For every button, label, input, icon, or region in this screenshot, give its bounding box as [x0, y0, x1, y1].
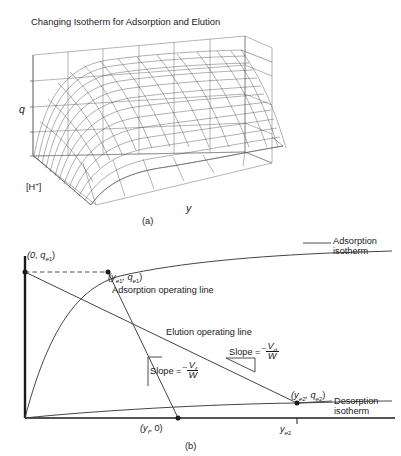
panel-a-caption: (a) — [142, 216, 153, 226]
mesh-constant-y-lines — [34, 50, 286, 205]
panel-a-q-axis-label: q — [19, 104, 25, 116]
marker-yf-0 — [176, 416, 181, 421]
surface-front-edge — [34, 146, 283, 205]
slope-desorbent-label: Slope = — [229, 347, 260, 357]
yf0-end: , 0) — [149, 423, 162, 433]
label-desorption-isotherm-line2: isotherm — [334, 406, 369, 416]
label-adsorption-isotherm-line1: Adsorption — [333, 236, 377, 246]
ye2qe2-q: , q — [305, 390, 315, 400]
ye1qe1-end: ) — [139, 272, 142, 282]
ye2qe2-end: ) — [322, 390, 325, 400]
figure-artwork — [0, 0, 401, 456]
label-point-ye2-qe2: (ye2, qe2) — [291, 390, 325, 400]
slope-desorbent-fraction: Vd W — [266, 342, 279, 362]
ye1qe1-y: (y — [108, 272, 116, 282]
slope-feed-denominator: W — [187, 371, 199, 380]
label-adsorption-isotherm-line2: isotherm — [333, 246, 368, 256]
slope-feed-label: Slope = — [150, 366, 181, 376]
ye2qe2-y: (y — [291, 390, 299, 400]
label-adsorption-operating-line: Adsorption operating line — [112, 285, 214, 295]
surface-shelf — [241, 50, 283, 146]
label-point-yf-0: (yf, 0) — [140, 423, 163, 433]
label-axis-tick-ye2: ye2 — [280, 424, 291, 434]
yf0-y: (y — [140, 423, 148, 433]
h-label-main: [H — [26, 182, 35, 192]
right-wall-grid — [245, 36, 272, 163]
marker-0-qe1 — [23, 270, 28, 275]
ye2-axis-sub-2: 2 — [288, 430, 291, 436]
floor-grid — [33, 152, 272, 205]
q-axis — [30, 55, 33, 156]
panel-a-h-axis-label: [H+] — [26, 182, 41, 192]
label-point-ye1-qe1: (ye1, qe1) — [108, 272, 142, 282]
panel-b-caption: (b) — [185, 441, 196, 451]
qe1-text-a: (0, q — [27, 250, 45, 260]
ye1qe1-q: , q — [122, 272, 132, 282]
slope-feed-fraction: Vf W — [187, 361, 199, 381]
figure-title: Changing Isotherm for Adsorption and Elu… — [31, 17, 220, 28]
label-point-0-qe1: (0, qe1) — [27, 250, 55, 260]
label-elution-operating-line: Elution operating line — [166, 327, 252, 337]
qe1-text-end: ) — [52, 250, 55, 260]
panel-a-3d-surface — [30, 36, 286, 205]
label-desorption-isotherm-line1: Desorption — [334, 396, 378, 406]
slope-annotation-desorbent: Slope = – Vd W — [229, 342, 279, 362]
panel-a-y-axis-label: y — [186, 203, 191, 215]
figure-container: Changing Isotherm for Adsorption and Elu… — [0, 0, 401, 456]
slope-annotation-feed: Slope = – Vf W — [150, 361, 199, 381]
h-label-end: ] — [39, 182, 42, 192]
isotherm-mesh-surface — [34, 50, 286, 205]
slope-desorbent-denominator: W — [266, 352, 278, 361]
